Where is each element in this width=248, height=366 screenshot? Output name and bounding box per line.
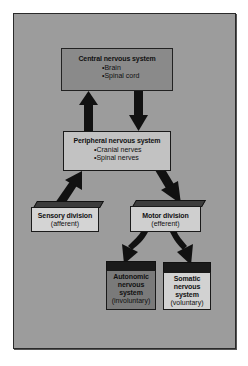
somatic-nervous-system-box: Somatic nervous system (voluntary): [163, 272, 211, 310]
cns-item-spinal-cord: Spinal cord: [102, 72, 172, 80]
cns-title: Central nervous system: [62, 55, 172, 63]
somatic-line1: Somatic: [164, 275, 210, 283]
sensory-sub: (afferent): [32, 220, 98, 228]
autonomic-nervous-system-box: Autonomic nervous system (involuntary): [106, 270, 156, 310]
sensory-title: Sensory division: [32, 212, 98, 220]
arrow-pns-to-motor-icon: [155, 166, 181, 204]
pns-item-spinal-nerves: Spinal nerves: [94, 154, 170, 162]
pns-box: Peripheral nervous system Cranial nerves…: [63, 131, 171, 171]
pns-title: Peripheral nervous system: [64, 137, 170, 145]
autonomic-sub: (involuntary): [107, 297, 155, 305]
sensory-division-box: Sensory division (afferent): [31, 207, 99, 232]
pns-item-cranial-nerves: Cranial nerves: [94, 146, 170, 154]
arrow-pns-to-cns-icon: [79, 91, 98, 132]
motor-sub: (efferent): [131, 220, 200, 228]
arrow-motor-to-somatic-icon: [170, 230, 193, 265]
motor-title: Motor division: [131, 212, 200, 220]
arrow-cns-to-pns-icon: [129, 91, 148, 131]
cns-items: Brain Spinal cord: [62, 64, 172, 80]
autonomic-line1: Autonomic: [107, 273, 155, 281]
autonomic-line3: system: [107, 289, 155, 297]
motor-division-box: Motor division (efferent): [130, 206, 201, 232]
arrow-motor-to-autonomic-icon: [122, 230, 148, 264]
autonomic-line2: nervous: [107, 281, 155, 289]
cns-box: Central nervous system Brain Spinal cord: [61, 48, 173, 91]
somatic-line2: nervous: [164, 283, 210, 291]
pns-items: Cranial nerves Spinal nerves: [64, 146, 170, 162]
somatic-sub: (voluntary): [164, 299, 210, 307]
somatic-line3: system: [164, 291, 210, 299]
cns-item-brain: Brain: [102, 64, 172, 72]
